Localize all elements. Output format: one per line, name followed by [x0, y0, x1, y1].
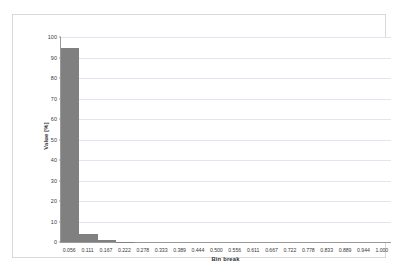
x-axis-tick-label: 0.389	[170, 245, 188, 255]
bar-slot	[336, 37, 354, 242]
y-axis-tick-label: 0	[54, 239, 57, 245]
bar-slot	[318, 37, 336, 242]
plot-area: 0102030405060708090100	[60, 37, 391, 243]
chart-figure-frame: Value [%] 0102030405060708090100 0.0560.…	[12, 14, 386, 258]
x-axis-tick-label: 0.111	[78, 245, 96, 255]
bar	[79, 234, 97, 242]
bar-slot	[299, 37, 317, 242]
y-axis-tick-label: 70	[51, 96, 57, 102]
y-axis-tick-label: 40	[51, 157, 57, 163]
x-axis-tick-label: 0.833	[317, 245, 335, 255]
x-axis-tick-label: 0.722	[281, 245, 299, 255]
y-axis-tick-label: 60	[51, 116, 57, 122]
bar	[98, 240, 116, 242]
x-axis-tick-label: 0.333	[152, 245, 170, 255]
x-axis-tick-label: 0.222	[115, 245, 133, 255]
bar-slot	[189, 37, 207, 242]
x-axis-tick-label: 0.944	[354, 245, 372, 255]
bar	[61, 48, 79, 242]
bar-slot	[263, 37, 281, 242]
y-axis-title: Value [%]	[43, 122, 49, 150]
bar-slot	[79, 37, 97, 242]
x-axis-tick-label: 1.000	[373, 245, 391, 255]
bar-slot	[61, 37, 79, 242]
x-axis-tick-labels: 0.0560.1110.1670.2220.2780.3330.3890.444…	[60, 245, 391, 255]
x-axis-tick-label: 0.056	[60, 245, 78, 255]
bar-slot	[134, 37, 152, 242]
x-axis-tick-label: 0.167	[97, 245, 115, 255]
bar-slot	[153, 37, 171, 242]
x-axis-tick-label: 0.611	[244, 245, 262, 255]
y-axis-tick-label: 20	[51, 198, 57, 204]
bar-slot	[244, 37, 262, 242]
bar-slot	[281, 37, 299, 242]
x-axis-title: Bin break	[60, 256, 391, 262]
bar-series	[61, 37, 391, 242]
x-axis-tick-label: 0.667	[262, 245, 280, 255]
y-axis-tick-label: 30	[51, 178, 57, 184]
y-axis-tick-label: 10	[51, 219, 57, 225]
y-axis-tick-label: 100	[48, 34, 57, 40]
x-axis-tick-label: 0.278	[134, 245, 152, 255]
x-axis-tick-label: 0.778	[299, 245, 317, 255]
y-axis-tick-label: 50	[51, 137, 57, 143]
x-axis-tick-label: 0.556	[226, 245, 244, 255]
y-axis-tick-label: 80	[51, 75, 57, 81]
bar-slot	[171, 37, 189, 242]
bar-slot	[98, 37, 116, 242]
y-axis-tick-label: 90	[51, 55, 57, 61]
x-axis-tick-label: 0.889	[336, 245, 354, 255]
bar-slot	[208, 37, 226, 242]
bar-slot	[373, 37, 391, 242]
bar-slot	[116, 37, 134, 242]
x-axis-tick-label: 0.444	[189, 245, 207, 255]
bar-slot	[354, 37, 372, 242]
x-axis-tick-label: 0.500	[207, 245, 225, 255]
bar-slot	[226, 37, 244, 242]
